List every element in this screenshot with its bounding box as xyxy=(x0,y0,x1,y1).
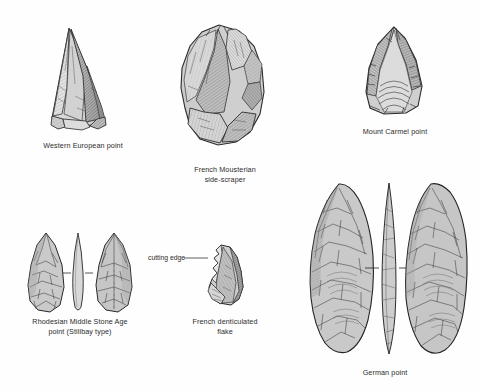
caption-mount-carmel-point: Mount Carmel point xyxy=(330,127,460,137)
caption-french-denticulated-flake: French denticulated flake xyxy=(170,317,280,336)
figure-rhodesian-middle-stone-age-point xyxy=(22,231,138,315)
stone-tool-plate: Western European point xyxy=(0,0,481,392)
german-point-drawing xyxy=(303,180,475,358)
rhodesian-point-drawing xyxy=(22,231,138,315)
figure-german-point xyxy=(303,180,475,358)
caption-german-point: German point xyxy=(330,368,440,378)
figure-mount-carmel-point xyxy=(358,24,434,120)
german-point-view-face-b xyxy=(406,184,468,354)
caption-rhodesian-middle-stone-age-point: Rhodesian Middle Stone Age point (Stillb… xyxy=(5,317,155,336)
western-european-point-drawing xyxy=(42,26,120,134)
rhodesian-view-face-b xyxy=(96,233,132,312)
rhodesian-view-face-a xyxy=(28,233,64,312)
figure-western-european-point xyxy=(42,26,120,134)
annotation-leader-line-cutting-edge xyxy=(184,253,210,263)
mount-carmel-point-drawing xyxy=(358,24,434,120)
annotation-label-cutting-edge: cutting edge xyxy=(148,254,185,261)
caption-french-mousterian-side-scraper: French Mousterian side-scraper xyxy=(155,165,295,184)
figure-french-mousterian-side-scraper xyxy=(176,22,272,150)
french-mousterian-side-scraper-drawing xyxy=(176,22,272,150)
german-point-view-face-a xyxy=(310,184,373,353)
caption-western-european-point: Western European point xyxy=(18,141,148,151)
rhodesian-view-profile xyxy=(63,233,93,310)
